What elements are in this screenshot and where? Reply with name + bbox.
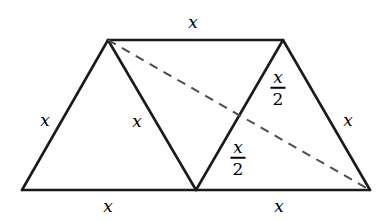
right-side-label: x xyxy=(343,112,353,129)
upper-half-denominator: 2 xyxy=(272,90,285,107)
edge-inner-left-slant xyxy=(108,40,196,190)
upper-half-numerator: x xyxy=(272,69,284,86)
left-side-label: x xyxy=(40,112,50,129)
edge-left-slant xyxy=(22,40,108,190)
lower-half-numerator: x xyxy=(232,139,244,156)
top-side-label: x xyxy=(188,14,198,31)
base-right-label: x xyxy=(274,198,284,215)
lower-half-denominator: 2 xyxy=(232,160,245,177)
inner-left-slant-label: x xyxy=(132,113,142,130)
geometry-figure: x x x x x x x 2 x 2 xyxy=(0,0,388,222)
base-left-label: x xyxy=(103,198,113,215)
figure-canvas xyxy=(0,0,388,222)
edge-right-slant xyxy=(283,40,370,190)
upper-half-fraction-label: x 2 xyxy=(271,69,286,108)
lower-half-fraction-label: x 2 xyxy=(231,139,246,178)
